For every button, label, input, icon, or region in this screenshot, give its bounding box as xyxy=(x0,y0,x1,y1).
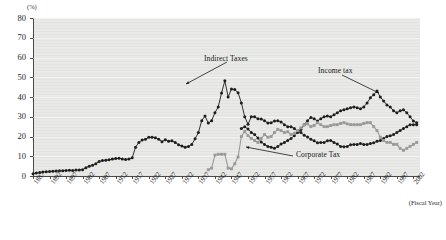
data-point xyxy=(276,128,279,131)
data-point xyxy=(260,141,263,144)
data-point xyxy=(230,167,233,170)
data-point xyxy=(412,143,415,146)
data-point xyxy=(253,115,256,118)
data-point xyxy=(389,134,392,137)
data-point xyxy=(369,142,372,145)
data-point xyxy=(280,129,283,132)
data-point xyxy=(286,130,289,133)
data-point xyxy=(290,133,293,136)
data-point xyxy=(376,129,379,132)
data-point xyxy=(352,143,355,146)
data-point xyxy=(316,121,319,124)
data-point xyxy=(243,125,246,128)
data-point xyxy=(134,146,137,149)
data-point xyxy=(352,123,355,126)
data-point xyxy=(256,137,259,140)
data-point xyxy=(319,117,322,120)
data-point xyxy=(366,143,369,146)
data-point xyxy=(333,113,336,116)
data-point xyxy=(147,136,150,139)
data-point xyxy=(71,169,74,172)
data-point xyxy=(299,131,302,134)
data-point xyxy=(342,145,345,148)
data-point xyxy=(247,134,250,137)
data-point xyxy=(104,159,107,162)
data-point xyxy=(84,166,87,169)
data-point xyxy=(329,124,332,127)
data-point xyxy=(336,111,339,114)
data-point xyxy=(124,158,127,161)
data-point xyxy=(41,171,44,174)
data-point xyxy=(194,137,197,140)
annotation-leader-line xyxy=(246,147,293,156)
data-point xyxy=(81,168,84,171)
data-point xyxy=(339,145,342,148)
data-point xyxy=(382,99,385,102)
data-point xyxy=(402,149,405,152)
data-point xyxy=(366,121,369,124)
data-point xyxy=(296,129,299,132)
data-point xyxy=(68,169,71,172)
data-point xyxy=(359,142,362,145)
data-point xyxy=(108,158,111,161)
data-point xyxy=(210,167,213,170)
data-point xyxy=(141,139,144,142)
data-point xyxy=(266,122,269,125)
data-point xyxy=(75,169,78,172)
data-point xyxy=(415,121,418,124)
data-point xyxy=(399,147,402,150)
data-point xyxy=(180,144,183,147)
data-point xyxy=(336,143,339,146)
data-point xyxy=(213,111,216,114)
data-point xyxy=(333,123,336,126)
data-point xyxy=(94,162,97,165)
data-point xyxy=(369,121,372,124)
data-point xyxy=(144,138,147,141)
data-point xyxy=(392,133,395,136)
data-point xyxy=(290,137,293,140)
data-point xyxy=(270,121,273,124)
data-point xyxy=(356,106,359,109)
data-point xyxy=(326,139,329,142)
data-point xyxy=(220,153,223,156)
data-point xyxy=(309,116,312,119)
data-point xyxy=(329,139,332,142)
data-point xyxy=(154,136,157,139)
data-point xyxy=(389,141,392,144)
data-point xyxy=(379,139,382,142)
data-point xyxy=(313,124,316,127)
data-point xyxy=(111,158,114,161)
data-point xyxy=(114,157,117,160)
data-point xyxy=(204,114,207,117)
data-point xyxy=(405,111,408,114)
series-line xyxy=(33,81,417,174)
series-line xyxy=(241,91,416,148)
data-point xyxy=(399,129,402,132)
data-point xyxy=(250,131,253,134)
data-point xyxy=(127,158,130,161)
series-corporate-tax xyxy=(207,121,418,171)
data-point xyxy=(409,115,412,118)
annotation-income-tax: Income tax xyxy=(318,66,353,75)
annotation-arrowhead xyxy=(246,146,249,149)
data-point xyxy=(385,103,388,106)
data-point xyxy=(306,135,309,138)
data-point xyxy=(266,145,269,148)
data-point xyxy=(405,125,408,128)
data-point xyxy=(118,157,121,160)
data-point xyxy=(313,139,316,142)
data-point xyxy=(316,141,319,144)
data-point xyxy=(280,120,283,123)
data-point xyxy=(256,141,259,144)
data-point xyxy=(409,123,412,126)
data-point xyxy=(177,143,180,146)
data-point xyxy=(256,117,259,120)
data-point xyxy=(217,153,220,156)
data-point xyxy=(346,107,349,110)
data-point xyxy=(309,138,312,141)
data-point xyxy=(376,140,379,143)
data-point xyxy=(346,145,349,148)
data-point xyxy=(389,105,392,108)
data-point xyxy=(263,119,266,122)
series-indirect-taxes xyxy=(32,79,419,175)
